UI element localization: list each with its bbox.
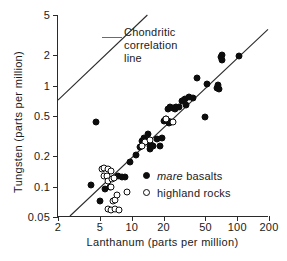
y-tick-label: 1: [44, 80, 50, 92]
filled-circle-icon: [143, 172, 150, 179]
data-point-highland: [138, 142, 145, 149]
chondritic-line-annotation: Chondritic correlation line: [124, 26, 178, 65]
legend-label-highland-rocks: highland rocks: [157, 187, 231, 199]
legend-label-mare-basalts: mare basalts: [157, 170, 222, 182]
y-tick: [53, 15, 58, 16]
data-point-highland: [123, 188, 130, 195]
data-point-mare: [183, 102, 190, 109]
legend-label-rest: basalts: [183, 170, 223, 182]
annotation-line-1: Chondritic: [124, 26, 178, 39]
data-point-highland: [147, 136, 154, 143]
data-point-highland: [111, 174, 118, 181]
y-tick: [53, 187, 58, 188]
annotation-line-2: correlation: [124, 39, 178, 52]
scatter-plot-figure: 0.050.10.20.5125 25102050100200 Chondrit…: [0, 0, 287, 261]
data-point-highland: [162, 115, 169, 122]
legend: mare basalts highland rocks: [143, 167, 231, 201]
data-point-mare: [215, 85, 222, 92]
data-point-mare: [158, 135, 165, 142]
data-point-highland: [107, 167, 114, 174]
x-tick-label: 100: [228, 221, 247, 233]
y-tick: [53, 55, 58, 56]
data-point-mare: [204, 81, 211, 88]
data-point-mare: [202, 113, 209, 120]
x-tick-label: 20: [157, 221, 170, 233]
data-point-mare: [122, 174, 129, 181]
open-circle-icon: [143, 189, 150, 196]
x-tick-label: 2: [55, 221, 61, 233]
x-tick-label: 50: [199, 221, 212, 233]
data-point-mare: [175, 104, 182, 111]
legend-item-mare-basalts: mare basalts: [143, 167, 231, 184]
x-tick-label: 10: [125, 221, 138, 233]
data-point-highland: [116, 206, 123, 213]
x-tick-label: 200: [260, 221, 279, 233]
data-point-highland: [169, 118, 176, 125]
data-point-mare: [194, 75, 201, 82]
y-tick-label: 0.2: [34, 150, 50, 162]
annotation-leader-line: [102, 37, 122, 38]
x-tick-label: 5: [97, 221, 103, 233]
x-axis-title: Lanthanum (parts per million): [57, 236, 268, 248]
y-tick-label: 5: [44, 9, 50, 21]
data-point-mare: [219, 57, 226, 64]
annotation-line-3: line: [124, 52, 178, 65]
y-tick-label: 0.1: [34, 181, 50, 193]
data-point-mare: [96, 198, 103, 205]
y-tick: [53, 86, 58, 87]
data-point-mare: [87, 182, 94, 189]
legend-item-highland-rocks: highland rocks: [143, 184, 231, 201]
data-point-mare: [236, 52, 243, 59]
y-axis-title: Tungsten (parts per million): [12, 21, 24, 223]
data-point-mare: [156, 142, 163, 149]
y-tick-label: 2: [44, 49, 50, 61]
y-tick: [53, 116, 58, 117]
data-point-mare: [93, 118, 100, 125]
y-tick-label: 0.5: [34, 110, 50, 122]
data-point-highland: [113, 192, 120, 199]
data-point-mare: [133, 152, 140, 159]
y-tick: [53, 156, 58, 157]
data-point-highland: [108, 184, 115, 191]
legend-label-emphasis: mare: [157, 170, 183, 182]
data-point-mare: [126, 159, 133, 166]
data-point-mare: [189, 94, 196, 101]
y-tick-label: 0.05: [28, 211, 50, 223]
